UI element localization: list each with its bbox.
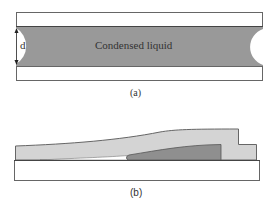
top-plate <box>17 13 263 27</box>
caption-b: (b) <box>130 187 142 198</box>
figure-b <box>14 129 260 181</box>
substrate <box>15 161 260 181</box>
bottom-plate <box>17 67 263 81</box>
liquid-label: Condensed liquid <box>95 39 172 51</box>
dimension-label: d <box>20 39 26 51</box>
diagram-canvas <box>0 0 274 208</box>
dimension-arrow-d <box>15 28 19 65</box>
caption-a: (a) <box>130 87 141 98</box>
